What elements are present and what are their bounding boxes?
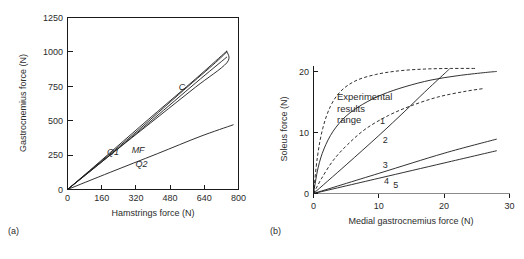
panel-a-xtick-3: 480 (163, 193, 178, 203)
panel-a-plot-frame (68, 18, 239, 190)
panel-b-series-3 (314, 139, 497, 193)
panel-b-ytick-0: 0 (304, 189, 309, 199)
panel-b-series-group (314, 68, 497, 193)
panel-a-xtick-0: 0 (65, 193, 70, 203)
panel-a: 1250 1000 750 500 250 0 0 160 320 (8, 13, 246, 236)
panel-b-ytick-1: 10 (299, 128, 309, 138)
panel-b-series-2 (314, 69, 450, 193)
panel-b-ytick-2: 20 (299, 67, 309, 77)
panel-a-caption-label: (a) (8, 226, 19, 236)
panel-b-x-axis-title: Medial gastrocnemius force (N) (348, 216, 473, 226)
panel-a-ytick-5: 1250 (43, 13, 63, 23)
panel-a-label-Q2: Q2 (135, 159, 147, 169)
panel-b-caption-label: (b) (270, 226, 281, 236)
panel-a-series-group (68, 51, 234, 189)
panel-b-series-4 (314, 151, 497, 194)
panel-a-ytick-4: 1000 (43, 47, 63, 57)
panel-b-label-3: 3 (383, 160, 388, 170)
panel-a-ytick-0: 0 (58, 185, 63, 195)
panel-b-label-1: 1 (380, 116, 385, 126)
panel-a-ytick-1: 250 (48, 150, 63, 160)
panel-b-annotation-range: range (337, 114, 361, 125)
panel-b-xtick-0: 0 (311, 201, 316, 211)
panel-b-annotations: Experimental results range 1 2 3 4 5 (337, 91, 398, 190)
panel-b-xtick-3: 30 (504, 201, 514, 211)
panel-a-y-tick-labels: 1250 1000 750 500 250 0 (43, 13, 63, 195)
panel-a-x-ticks (68, 185, 239, 190)
panel-a-annotations: C Q1 MF Q2 (107, 82, 186, 168)
panel-b-series-1 (314, 72, 497, 194)
panel-b-label-2: 2 (383, 135, 388, 145)
panel-b: 0 10 20 0 10 20 30 Medial gastrocnemius … (270, 66, 514, 237)
panel-a-ytick-2: 500 (48, 116, 63, 126)
panel-a-xtick-5: 800 (231, 193, 246, 203)
panel-a-x-axis-title: Hamstrings force (N) (111, 208, 194, 218)
panel-b-label-5: 5 (393, 180, 398, 190)
panel-a-label-MF: MF (132, 145, 145, 155)
panel-b-xtick-1: 10 (374, 201, 384, 211)
panel-a-series-Q2 (68, 125, 234, 190)
panel-b-x-ticks (314, 194, 510, 198)
panel-b-y-tick-labels: 0 10 20 (299, 67, 309, 199)
panel-a-ytick-3: 750 (48, 82, 63, 92)
panel-b-xtick-2: 20 (439, 201, 449, 211)
panel-a-y-axis-title: Gastrocnemius force (N) (18, 54, 28, 152)
panel-a-xtick-1: 160 (94, 193, 109, 203)
panel-a-x-tick-labels: 0 160 320 480 640 800 (65, 193, 246, 203)
panel-a-label-C: C (179, 82, 186, 92)
figure-container: 1250 1000 750 500 250 0 0 160 320 (0, 0, 524, 259)
panel-b-y-axis-title: Soleus force (N) (279, 96, 289, 161)
panel-b-annotation-experimental: Experimental (337, 91, 392, 102)
panel-a-label-Q1: Q1 (107, 147, 119, 157)
panel-a-y-ticks (68, 18, 73, 190)
panel-a-xtick-2: 320 (128, 193, 143, 203)
panel-a-xtick-4: 640 (197, 193, 212, 203)
two-panel-figure: 1250 1000 750 500 250 0 0 160 320 (0, 0, 524, 259)
panel-b-label-4: 4 (384, 176, 389, 186)
panel-b-annotation-results: results (337, 103, 365, 114)
panel-b-x-tick-labels: 0 10 20 30 (311, 201, 514, 211)
